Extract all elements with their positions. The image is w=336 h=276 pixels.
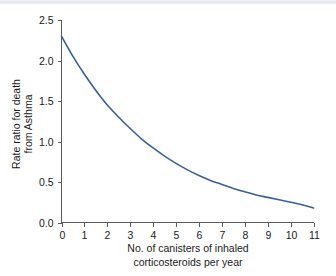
x-tick-label: 2 bbox=[105, 229, 111, 241]
y-axis-title-line2: from Asthma bbox=[22, 94, 34, 153]
data-series-line bbox=[62, 36, 314, 208]
rate-ratio-line-chart: 0.00.51.01.52.02.5 01234567891011 Rate r… bbox=[0, 0, 336, 276]
y-tick-marks bbox=[58, 21, 62, 224]
y-tick-label: 1.0 bbox=[39, 136, 54, 148]
x-tick-label: 9 bbox=[266, 229, 272, 241]
x-axis-title-line2: corticosteroids per year bbox=[133, 256, 243, 268]
x-tick-label: 7 bbox=[220, 229, 226, 241]
y-axis-title: Rate ratio for death from Asthma bbox=[10, 79, 34, 169]
x-tick-label: 8 bbox=[243, 229, 249, 241]
x-tick-labels: 01234567891011 bbox=[60, 229, 321, 241]
x-tick-label: 1 bbox=[82, 229, 88, 241]
x-axis-title: No. of canisters of inhaled corticostero… bbox=[127, 242, 249, 268]
y-tick-label: 2.5 bbox=[39, 14, 54, 26]
y-tick-label: 2.0 bbox=[39, 55, 54, 67]
chart-figure: 0.00.51.01.52.02.5 01234567891011 Rate r… bbox=[0, 0, 336, 276]
x-tick-label: 11 bbox=[309, 229, 320, 241]
y-axis-title-line1: Rate ratio for death bbox=[10, 79, 22, 169]
x-tick-label: 5 bbox=[174, 229, 180, 241]
x-tick-label: 4 bbox=[151, 229, 157, 241]
x-tick-label: 3 bbox=[128, 229, 134, 241]
y-tick-labels: 0.00.51.01.52.02.5 bbox=[39, 14, 54, 229]
y-tick-label: 1.5 bbox=[39, 95, 54, 107]
x-tick-marks bbox=[63, 223, 315, 227]
y-tick-label: 0.0 bbox=[39, 217, 54, 229]
x-tick-label: 6 bbox=[197, 229, 203, 241]
x-axis-title-line1: No. of canisters of inhaled bbox=[127, 242, 249, 254]
x-tick-label: 0 bbox=[60, 229, 66, 241]
top-gradient-band bbox=[0, 0, 336, 5]
y-tick-label: 0.5 bbox=[39, 176, 54, 188]
x-tick-label: 10 bbox=[286, 229, 298, 241]
